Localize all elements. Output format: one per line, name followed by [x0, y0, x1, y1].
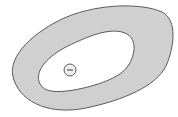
diagram-canvas: [0, 0, 178, 117]
ring-body: [12, 6, 173, 110]
ring-shape: [12, 6, 173, 110]
negative-charge-icon: [64, 64, 76, 76]
